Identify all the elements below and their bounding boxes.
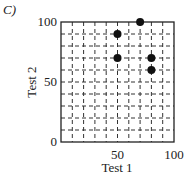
data-point — [114, 30, 122, 38]
data-point — [136, 18, 144, 26]
data-point — [147, 54, 155, 62]
data-point — [114, 54, 122, 62]
grid — [61, 22, 174, 142]
y-tick-labels: 050100 — [38, 14, 58, 149]
scatter-chart: C) 050100 50100 Test 1 Test 2 — [0, 0, 186, 177]
x-axis-label: Test 1 — [101, 160, 132, 175]
panel-label: C) — [3, 2, 16, 17]
data-point — [147, 66, 155, 74]
y-tick-label: 0 — [51, 134, 58, 149]
y-tick-label: 50 — [44, 74, 57, 89]
y-axis-label: Test 2 — [24, 66, 39, 97]
y-tick-label: 100 — [38, 14, 58, 29]
x-tick-label: 100 — [164, 147, 184, 162]
